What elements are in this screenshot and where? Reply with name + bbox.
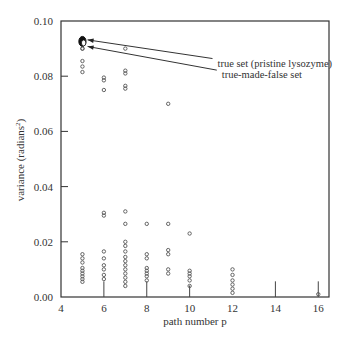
x-axis-label: path number p [163,315,227,327]
data-point [231,291,234,294]
data-point [167,222,170,225]
data-point [167,272,170,275]
data-point [81,257,84,260]
data-point [124,276,127,279]
data-points [81,47,320,296]
annotation-true-made-false-set: true-made-false set [222,69,302,80]
y-axis-label-close: ) [14,118,27,122]
data-point [231,283,234,286]
data-point [124,210,127,213]
y-tick-label: 0.02 [34,236,53,248]
annotation-true-set: true set (pristine lysozyme) [218,58,333,70]
arrowhead-icon [88,45,94,49]
data-point [124,240,127,243]
data-point [124,255,127,258]
y-tick-label: 0.04 [34,181,54,193]
data-point [188,279,191,282]
y-tick-label: 0.10 [34,15,54,27]
data-point [124,244,127,247]
data-point [124,47,127,50]
x-tick-label: 8 [144,302,150,314]
x-tick-label: 4 [58,302,64,314]
data-point [81,261,84,264]
highlight-cluster [79,36,86,50]
data-point [102,264,105,267]
data-point [145,253,148,256]
x-tick-label: 16 [313,302,325,314]
data-point [124,268,127,271]
data-point [124,284,127,287]
x-tick-label: 12 [227,302,238,314]
data-point [167,268,170,271]
data-point [231,268,234,271]
x-axis-ticks: 46810121416 [58,302,324,314]
data-point [231,273,234,276]
annotation-arrow-line [88,40,213,59]
data-point [167,102,170,105]
y-tick-label: 0.00 [34,291,54,303]
data-point [102,88,105,91]
data-point [81,70,84,73]
data-point [81,59,84,62]
y-axis-ticks: 0.000.020.040.060.080.10 [34,15,68,303]
x-tick-label: 6 [101,302,107,314]
arrowhead-icon [88,39,94,43]
scatter-chart: 0.000.020.040.060.080.10 46810121416 tru… [0,0,347,342]
data-point [102,273,105,276]
y-tick-label: 0.06 [34,125,54,137]
data-point [124,222,127,225]
data-point [81,253,84,256]
stem-lines [104,281,318,297]
data-point [167,248,170,251]
data-point [124,264,127,267]
data-point [124,250,127,253]
data-point [231,279,234,282]
data-point [145,222,148,225]
data-point [124,272,127,275]
data-point [145,257,148,260]
data-point [102,268,105,271]
data-point [81,47,84,50]
data-point [81,65,84,68]
data-point [188,232,191,235]
data-point [124,259,127,262]
x-tick-label: 10 [184,302,196,314]
data-point [124,280,127,283]
x-tick-label: 14 [270,302,282,314]
data-point [167,253,170,256]
y-axis-label-main: variance (radians [14,126,27,201]
y-axis-label: variance (radians2) [14,118,27,201]
data-point [102,250,105,253]
true-made-false-blob [81,40,85,46]
data-point [102,277,105,280]
data-point [231,287,234,290]
y-tick-label: 0.08 [34,70,54,82]
annotations: true set (pristine lysozyme)true-made-fa… [88,39,333,81]
data-point [102,257,105,260]
